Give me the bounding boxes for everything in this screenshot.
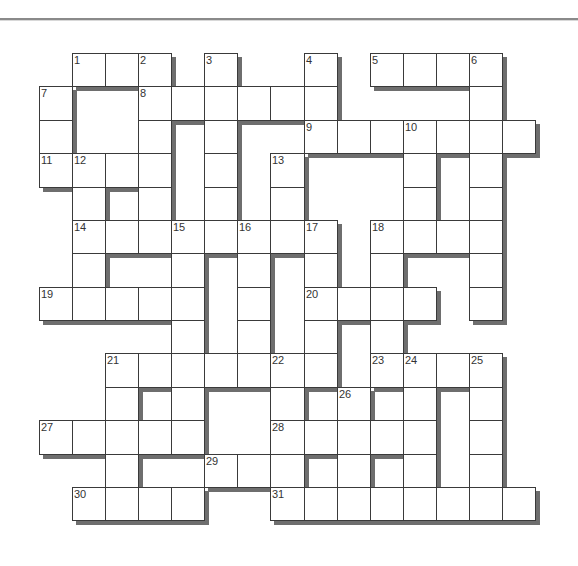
crossword-cell[interactable]: 7 xyxy=(39,86,73,121)
crossword-cell[interactable] xyxy=(72,420,106,455)
cell-letter-input[interactable] xyxy=(404,154,436,187)
cell-letter-input[interactable] xyxy=(371,121,403,153)
cell-letter-input[interactable] xyxy=(106,455,138,487)
crossword-cell[interactable] xyxy=(105,153,139,188)
crossword-cell[interactable] xyxy=(436,53,470,87)
crossword-cell[interactable]: 26 xyxy=(337,387,371,421)
cell-letter-input[interactable] xyxy=(404,121,436,153)
crossword-cell[interactable] xyxy=(436,353,470,388)
crossword-cell[interactable] xyxy=(436,487,470,521)
cell-letter-input[interactable] xyxy=(205,154,237,187)
cell-letter-input[interactable] xyxy=(106,488,138,520)
cell-letter-input[interactable] xyxy=(139,54,171,86)
crossword-cell[interactable]: 3 xyxy=(204,53,238,87)
cell-letter-input[interactable] xyxy=(338,421,370,454)
cell-letter-input[interactable] xyxy=(172,421,204,454)
crossword-cell[interactable] xyxy=(237,353,271,388)
crossword-cell[interactable] xyxy=(204,353,238,388)
cell-letter-input[interactable] xyxy=(305,221,337,253)
cell-letter-input[interactable] xyxy=(238,288,270,320)
crossword-cell[interactable]: 20 xyxy=(304,287,338,321)
crossword-cell[interactable] xyxy=(469,120,503,154)
cell-letter-input[interactable] xyxy=(40,87,72,120)
crossword-cell[interactable]: 27 xyxy=(39,420,73,455)
cell-letter-input[interactable] xyxy=(338,488,370,520)
cell-letter-input[interactable] xyxy=(139,221,171,253)
cell-letter-input[interactable] xyxy=(106,54,138,86)
crossword-cell[interactable] xyxy=(337,287,371,321)
cell-letter-input[interactable] xyxy=(205,455,237,487)
cell-letter-input[interactable] xyxy=(172,488,204,520)
cell-letter-input[interactable] xyxy=(470,455,502,487)
cell-letter-input[interactable] xyxy=(305,288,337,320)
cell-letter-input[interactable] xyxy=(470,54,502,86)
cell-letter-input[interactable] xyxy=(404,421,436,454)
cell-letter-input[interactable] xyxy=(470,288,502,320)
cell-letter-input[interactable] xyxy=(404,488,436,520)
crossword-cell[interactable] xyxy=(204,120,238,154)
crossword-cell[interactable] xyxy=(502,487,536,521)
cell-letter-input[interactable] xyxy=(404,388,436,420)
cell-letter-input[interactable] xyxy=(371,288,403,320)
crossword-cell[interactable] xyxy=(370,420,404,455)
crossword-cell[interactable] xyxy=(304,253,338,288)
cell-letter-input[interactable] xyxy=(139,121,171,153)
cell-letter-input[interactable] xyxy=(305,54,337,86)
cell-letter-input[interactable] xyxy=(205,54,237,86)
cell-letter-input[interactable] xyxy=(205,354,237,387)
crossword-cell[interactable] xyxy=(403,220,437,254)
crossword-cell[interactable] xyxy=(39,120,73,154)
crossword-cell[interactable]: 16 xyxy=(237,220,271,254)
cell-letter-input[interactable] xyxy=(437,121,469,153)
crossword-cell[interactable] xyxy=(403,187,437,221)
cell-letter-input[interactable] xyxy=(205,221,237,253)
crossword-cell[interactable] xyxy=(171,253,205,288)
crossword-cell[interactable] xyxy=(370,287,404,321)
crossword-cell[interactable] xyxy=(304,487,338,521)
cell-letter-input[interactable] xyxy=(404,455,436,487)
crossword-cell[interactable] xyxy=(469,487,503,521)
crossword-cell[interactable]: 15 xyxy=(171,220,205,254)
cell-letter-input[interactable] xyxy=(106,421,138,454)
cell-letter-input[interactable] xyxy=(305,354,337,387)
cell-letter-input[interactable] xyxy=(73,54,105,86)
cell-letter-input[interactable] xyxy=(172,388,204,420)
crossword-cell[interactable] xyxy=(403,487,437,521)
crossword-cell[interactable] xyxy=(171,353,205,388)
crossword-cell[interactable] xyxy=(171,320,205,354)
cell-letter-input[interactable] xyxy=(139,87,171,120)
cell-letter-input[interactable] xyxy=(470,254,502,287)
cell-letter-input[interactable] xyxy=(205,188,237,220)
cell-letter-input[interactable] xyxy=(73,188,105,220)
crossword-cell[interactable] xyxy=(204,153,238,188)
crossword-cell[interactable] xyxy=(304,353,338,388)
crossword-cell[interactable] xyxy=(237,320,271,354)
cell-letter-input[interactable] xyxy=(271,188,304,220)
cell-letter-input[interactable] xyxy=(205,121,237,153)
cell-letter-input[interactable] xyxy=(503,121,535,153)
cell-letter-input[interactable] xyxy=(305,254,337,287)
cell-letter-input[interactable] xyxy=(139,154,171,187)
cell-letter-input[interactable] xyxy=(371,321,403,353)
crossword-cell[interactable]: 17 xyxy=(304,220,338,254)
cell-letter-input[interactable] xyxy=(503,488,535,520)
cell-letter-input[interactable] xyxy=(271,154,304,187)
crossword-cell[interactable]: 6 xyxy=(469,53,503,87)
cell-letter-input[interactable] xyxy=(305,421,337,454)
cell-letter-input[interactable] xyxy=(139,354,171,387)
crossword-cell[interactable] xyxy=(204,220,238,254)
cell-letter-input[interactable] xyxy=(40,154,72,187)
crossword-cell[interactable]: 22 xyxy=(270,353,305,388)
cell-letter-input[interactable] xyxy=(404,354,436,387)
cell-letter-input[interactable] xyxy=(271,455,304,487)
cell-letter-input[interactable] xyxy=(437,221,469,253)
crossword-cell[interactable]: 23 xyxy=(370,353,404,388)
cell-letter-input[interactable] xyxy=(371,354,403,387)
cell-letter-input[interactable] xyxy=(106,221,138,253)
crossword-cell[interactable]: 4 xyxy=(304,53,338,87)
cell-letter-input[interactable] xyxy=(40,421,72,454)
crossword-cell[interactable] xyxy=(337,420,371,455)
cell-letter-input[interactable] xyxy=(205,87,237,120)
crossword-cell[interactable] xyxy=(403,420,437,455)
cell-letter-input[interactable] xyxy=(73,488,105,520)
